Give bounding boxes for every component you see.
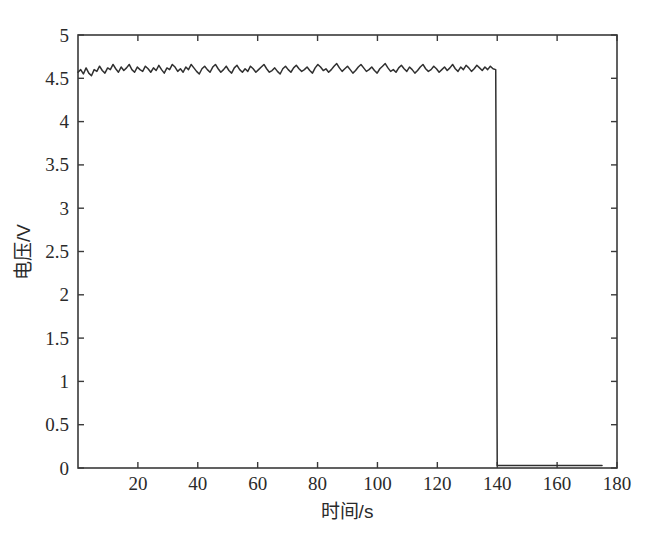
axis-frame — [78, 35, 617, 468]
x-tick-label: 160 — [543, 473, 572, 494]
y-tick-label: 1.5 — [45, 328, 69, 349]
y-tick-label: 2 — [60, 284, 70, 305]
x-tick-label: 60 — [248, 473, 267, 494]
x-axis-title: 时间/s — [321, 501, 374, 522]
data-series-layer — [78, 64, 602, 466]
x-tick-label: 180 — [603, 473, 632, 494]
y-tick-label: 4.5 — [45, 68, 69, 89]
y-axis-tick-labels: 00.511.522.533.544.55 — [45, 25, 69, 479]
data-series-line — [78, 64, 602, 466]
y-axis-ticks — [78, 35, 617, 468]
chart-plot-area: 20406080100120140160180 00.511.522.533.5… — [0, 0, 646, 546]
x-tick-label: 80 — [308, 473, 327, 494]
y-tick-label: 3.5 — [45, 154, 69, 175]
x-axis-tick-labels: 20406080100120140160180 — [128, 473, 631, 494]
x-tick-label: 120 — [423, 473, 452, 494]
x-tick-label: 100 — [363, 473, 392, 494]
y-tick-label: 0.5 — [45, 414, 69, 435]
y-tick-label: 2.5 — [45, 241, 69, 262]
y-tick-label: 0 — [60, 458, 70, 479]
chart-figure: 20406080100120140160180 00.511.522.533.5… — [0, 0, 646, 546]
x-tick-label: 140 — [483, 473, 512, 494]
x-axis-ticks — [138, 35, 617, 468]
y-axis-title: 电压/V — [13, 224, 34, 280]
y-tick-label: 5 — [60, 25, 70, 46]
y-tick-label: 4 — [60, 111, 70, 132]
plot-box-border — [78, 35, 617, 468]
y-tick-label: 1 — [60, 371, 70, 392]
y-tick-label: 3 — [60, 198, 70, 219]
x-tick-label: 20 — [128, 473, 147, 494]
x-tick-label: 40 — [188, 473, 207, 494]
